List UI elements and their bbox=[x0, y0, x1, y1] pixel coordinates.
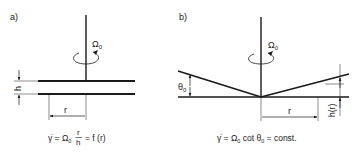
theta-label: θ0 bbox=[178, 82, 187, 93]
h-of-r-label: h(r) bbox=[327, 104, 337, 117]
omega-label-b: Ω0 bbox=[268, 40, 279, 51]
h-label: h bbox=[13, 86, 23, 91]
panel-b-label: b) bbox=[179, 12, 187, 22]
cone-right bbox=[261, 74, 349, 97]
cone-left bbox=[178, 71, 261, 97]
formula-a: γ̇ = Ω0 r h = f (r) bbox=[48, 128, 106, 147]
r-label: r bbox=[64, 105, 67, 115]
panel-a-label: a) bbox=[10, 12, 18, 22]
panel-a: a) Ω0 h r γ̇ = Ω0 r h = f (r) bbox=[10, 12, 135, 147]
diagram-canvas: a) Ω0 h r γ̇ = Ω0 r h = f (r) bbox=[0, 0, 357, 153]
omega-label: Ω0 bbox=[92, 39, 103, 50]
formula-b: γ̇ = Ω0 cot θ0 = const. bbox=[217, 133, 297, 144]
svg-text:h: h bbox=[76, 138, 80, 147]
svg-text:= f (r): = f (r) bbox=[85, 133, 106, 143]
panel-b: b) Ω0 θ0 h(r) r γ̇ = Ω0 cot θ0 = const. bbox=[178, 12, 349, 144]
svg-text:γ̇ = Ω0: γ̇ = Ω0 bbox=[48, 133, 71, 144]
svg-text:r: r bbox=[77, 128, 80, 137]
r-label-b: r bbox=[288, 106, 291, 116]
